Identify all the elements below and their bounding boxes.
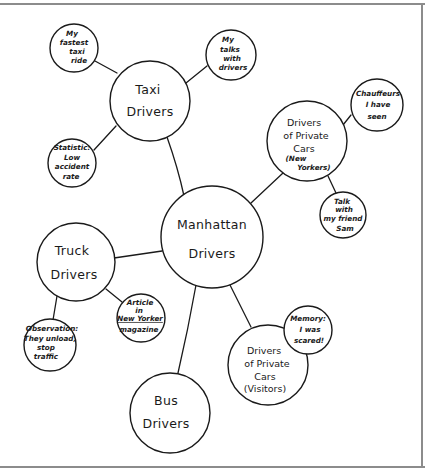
node-label: talks bbox=[220, 45, 241, 54]
node-label: (New bbox=[286, 154, 307, 163]
node-chauffeurs: Chauffeurs I have seen bbox=[351, 79, 403, 131]
node-label: Statistic: bbox=[54, 143, 91, 152]
edge-manhattan-private-ny bbox=[251, 173, 283, 203]
node-label: Drivers bbox=[126, 104, 173, 119]
node-label: Taxi bbox=[134, 82, 160, 97]
node-manhattan-drivers: Manhattan Drivers bbox=[161, 186, 263, 288]
node-label: Drivers bbox=[287, 117, 321, 128]
node-label: Observation: bbox=[26, 324, 78, 333]
node-label: Truck bbox=[54, 243, 90, 258]
node-label: magazine bbox=[120, 325, 159, 334]
edge-taxi-fastest bbox=[95, 61, 117, 73]
node-label: seen bbox=[367, 112, 386, 121]
node-memory: Memory: I was scared! bbox=[284, 306, 332, 354]
node-observation: Observation: They unload, stop traffic bbox=[24, 319, 79, 371]
node-taxi-drivers: Taxi Drivers bbox=[110, 61, 190, 141]
node-label: ride bbox=[71, 56, 87, 65]
edge-manhattan-truck bbox=[114, 251, 162, 258]
node-label: fastest bbox=[60, 38, 89, 47]
node-label: Cars bbox=[254, 371, 275, 382]
edge-privateny-friend bbox=[328, 176, 336, 193]
node-bus-drivers: Bus Drivers bbox=[130, 373, 210, 453]
node-label: Drivers bbox=[247, 345, 281, 356]
node-label: with bbox=[335, 205, 353, 214]
node-label: drivers bbox=[219, 63, 248, 72]
node-fastest-taxi-ride: My fastest taxi ride bbox=[50, 24, 98, 72]
node-label: Sam bbox=[336, 224, 354, 233]
node-label: New Yorker bbox=[117, 314, 163, 323]
node-label: accident bbox=[55, 162, 90, 171]
edge-taxi-talks bbox=[186, 66, 207, 83]
node-private-cars-new-yorkers: Drivers of Private Cars (New Yorkers) bbox=[267, 101, 347, 181]
node-label: of Private bbox=[283, 130, 328, 141]
node-label: Yorkers) bbox=[297, 163, 330, 172]
edge-privateny-chauffeurs bbox=[343, 115, 351, 125]
node-label: with bbox=[223, 54, 241, 63]
node-label: my friend bbox=[324, 214, 364, 223]
node-label: traffic bbox=[34, 352, 59, 361]
node-label: rate bbox=[63, 172, 80, 181]
node-label: stop bbox=[37, 343, 55, 352]
node-label: I was bbox=[300, 325, 322, 334]
cluster-diagram: Manhattan Drivers Taxi Drivers My fastes… bbox=[0, 0, 425, 471]
node-statistic: Statistic: Low accident rate bbox=[48, 139, 96, 187]
node-talk-friend-sam: Talk with my friend Sam bbox=[320, 192, 366, 238]
node-label: Drivers bbox=[142, 416, 189, 431]
edge-truck-article bbox=[106, 289, 122, 302]
node-label: Drivers bbox=[188, 246, 235, 261]
node-label: scared! bbox=[294, 336, 324, 345]
node-label: I have bbox=[366, 100, 391, 109]
node-label: taxi bbox=[69, 47, 85, 56]
node-label: Chauffeurs bbox=[356, 89, 401, 98]
edge-taxi-statistic bbox=[94, 126, 116, 150]
node-talks-with-drivers: My talks with drivers bbox=[206, 30, 256, 80]
node-label: Manhattan bbox=[177, 217, 247, 232]
node-label: of Private bbox=[244, 358, 289, 369]
node-label: Drivers bbox=[50, 267, 97, 282]
node-label: Cars bbox=[293, 143, 314, 154]
node-label: My bbox=[222, 35, 234, 44]
node-truck-drivers: Truck Drivers bbox=[37, 223, 115, 301]
edge-manhattan-taxi bbox=[167, 137, 184, 196]
node-label: Bus bbox=[154, 393, 178, 408]
node-label: Memory: bbox=[290, 314, 326, 323]
node-article: Article in New Yorker magazine bbox=[117, 294, 165, 342]
edge-manhattan-private-visitors bbox=[229, 283, 251, 327]
node-label: My bbox=[66, 29, 78, 38]
edge-manhattan-bus bbox=[178, 285, 196, 373]
edge-truck-observation bbox=[53, 296, 57, 320]
node-label: Low bbox=[64, 153, 81, 162]
node-label: They unload, bbox=[24, 334, 76, 343]
node-label: (Visitors) bbox=[244, 383, 286, 394]
